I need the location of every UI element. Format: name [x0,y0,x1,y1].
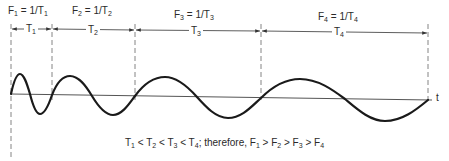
period-label-t4: T4 [332,27,346,37]
period-label-t2: T2 [86,25,100,35]
freq-formula-f4: F4 = 1/T4 [318,12,358,22]
period-label-t1: T1 [24,24,38,34]
period-dimension-arrows [12,29,427,33]
time-axis-label: t [436,93,439,103]
period-frequency-diagram: F1 = 1/T1 F2 = 1/T2 F3 = 1/T3 F4 = 1/T4 … [0,0,449,161]
relationship-caption: T1 < T2 < T3 < T4; therefore, F1 > F2 > … [0,137,449,148]
freq-formula-f3: F3 = 1/T3 [174,10,214,20]
freq-formula-f1: F1 = 1/T1 [8,6,48,16]
freq-formula-f2: F2 = 1/T2 [72,6,112,16]
waveform-curve [11,74,428,121]
period-label-t3: T3 [189,26,203,36]
time-axis [11,94,432,100]
